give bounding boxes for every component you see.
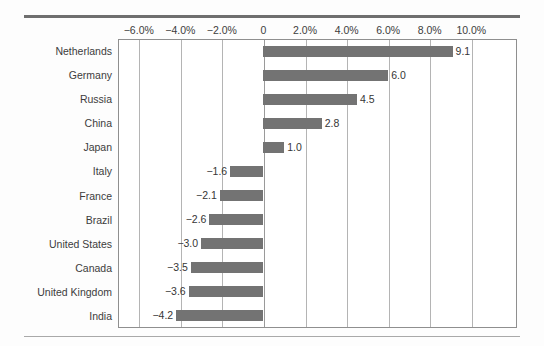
gridline-1: [181, 40, 182, 327]
gridline-4: [306, 40, 307, 327]
plot-area: [118, 39, 517, 328]
x-tick-label: −6.0%: [124, 24, 154, 37]
x-tick-label: 10.0%: [456, 24, 486, 37]
category-label: United Kingdom: [37, 286, 112, 298]
category-label: United States: [49, 238, 112, 250]
x-tick-label: 6.0%: [376, 24, 400, 37]
gridline-0: [139, 40, 140, 327]
x-tick-label: 2.0%: [293, 24, 317, 37]
bottom-divider-rule: [24, 336, 520, 337]
category-label: Brazil: [86, 214, 112, 226]
category-label: Canada: [75, 262, 112, 274]
gridlines: [119, 40, 516, 327]
x-tick-label: −4.0%: [165, 24, 195, 37]
x-tick-label: −2.0%: [207, 24, 237, 37]
x-tick-label: 4.0%: [335, 24, 359, 37]
gridline-7: [430, 40, 431, 327]
category-label: Italy: [93, 165, 112, 177]
x-tick-label: 0: [261, 24, 267, 37]
category-label: India: [89, 310, 112, 322]
y-axis-category-labels: NetherlandsGermanyRussiaChinaJapanItalyF…: [0, 39, 112, 328]
x-tick-label: 8.0%: [418, 24, 442, 37]
chart-figure: −6.0%−4.0%−2.0%02.0%4.0%6.0%8.0%10.0% Ne…: [0, 0, 544, 346]
gridline-2: [222, 40, 223, 327]
gridline-8: [472, 40, 473, 327]
category-label: Germany: [69, 69, 112, 81]
category-label: China: [85, 117, 112, 129]
category-label: Japan: [83, 141, 112, 153]
category-label: France: [79, 190, 112, 202]
category-label: Netherlands: [55, 45, 112, 57]
zero-gridline: [264, 40, 265, 327]
x-axis-tick-labels: −6.0%−4.0%−2.0%02.0%4.0%6.0%8.0%10.0%: [0, 24, 544, 38]
category-label: Russia: [80, 93, 112, 105]
gridline-6: [389, 40, 390, 327]
top-divider-rule: [24, 15, 520, 18]
gridline-5: [347, 40, 348, 327]
